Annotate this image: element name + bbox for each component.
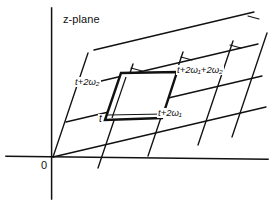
lattice-figure-svg [0, 0, 272, 206]
vertex-label-t-plus-2w1-plus-2w2: t+2ω₁+2ω₂ [176, 65, 224, 75]
tick-4 [248, 16, 259, 19]
tick-1 [131, 68, 142, 71]
origin-label: 0 [40, 160, 48, 171]
page-title: z-plane [62, 14, 101, 25]
vertex-label-t-plus-2w1: t+2ω₁ [157, 108, 183, 118]
vertex-label-t-plus-2w2: t+2ω₂ [74, 77, 101, 87]
lattice-shallow-line-3 [94, 12, 254, 50]
tick-2 [181, 57, 192, 60]
figure-container: z-plane 0 t t+2ω₂ t+2ω₁ t+2ω₁+2ω₂ [0, 0, 272, 206]
lattice-steep-line-0 [53, 53, 88, 157]
vertex-label-t: t [98, 114, 103, 124]
